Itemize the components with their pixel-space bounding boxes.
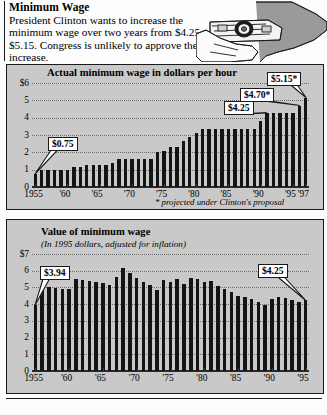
bar <box>108 285 112 371</box>
bar <box>34 305 38 371</box>
y-axis-label: 3 <box>7 131 29 140</box>
x-axis-tick <box>228 184 229 187</box>
x-axis-label: '95 <box>298 374 309 383</box>
x-axis-label: '70 <box>129 374 140 383</box>
bar <box>156 152 159 187</box>
x-axis-tick <box>132 184 133 187</box>
x-axis-label: '60 <box>61 374 72 383</box>
value-callout: $3.94 <box>40 266 70 280</box>
x-axis-tick <box>204 368 205 371</box>
bar <box>236 296 240 371</box>
bottom-divider <box>6 398 322 399</box>
x-axis-tick <box>171 368 172 371</box>
x-axis-label: '75 <box>156 190 167 199</box>
x-axis-tick <box>306 368 307 371</box>
hand-holding-money-icon <box>196 0 327 62</box>
x-axis-label: '75 <box>163 374 174 383</box>
x-axis-tick <box>69 368 70 371</box>
chart-value-of-minimum-wage: Value of minimum wage (In 1995 dollars, … <box>6 219 324 394</box>
bar <box>67 289 71 371</box>
bar <box>74 279 78 371</box>
x-axis-tick <box>35 368 36 371</box>
bar <box>240 129 243 187</box>
bar <box>149 159 152 187</box>
infographic-page: Minimum Wage President Clinton wants to … <box>0 0 327 415</box>
bar <box>243 297 247 371</box>
bar <box>272 113 275 187</box>
bar <box>148 285 152 371</box>
bar <box>135 278 139 371</box>
bar <box>297 302 301 371</box>
bar <box>188 137 191 187</box>
bar <box>298 106 301 187</box>
chart-bottom-subtitle: (In 1995 dollars, adjusted for inflation… <box>41 239 186 249</box>
bar <box>130 159 133 187</box>
x-axis-label: 1955 <box>24 374 43 383</box>
x-axis-tick <box>238 368 239 371</box>
y-axis-label: $6 <box>7 79 29 88</box>
bar <box>203 282 207 371</box>
bar <box>54 288 58 371</box>
x-axis-label: '80 <box>188 190 199 199</box>
bar <box>117 159 120 187</box>
x-axis-label: '95 <box>285 190 296 199</box>
bar <box>162 151 165 187</box>
bar <box>291 113 294 187</box>
x-axis-tick <box>261 184 262 187</box>
y-axis-label: $7 <box>7 250 29 259</box>
bar <box>196 279 200 371</box>
bar <box>92 165 95 187</box>
x-axis-label: '65 <box>95 374 106 383</box>
page-title: Minimum Wage <box>9 1 214 14</box>
bar <box>162 280 166 371</box>
bar <box>304 98 307 187</box>
x-axis-label: '85 <box>220 190 231 199</box>
y-axis-label: 3 <box>7 316 29 325</box>
bar <box>72 167 75 187</box>
x-axis-tick <box>306 184 307 187</box>
bar <box>250 299 254 371</box>
chart-actual-minimum-wage: Actual minimum wage in dollars per hour … <box>6 64 324 210</box>
callout-pointer <box>30 147 61 179</box>
y-axis-label: 6 <box>7 266 29 275</box>
bar <box>230 292 234 371</box>
x-axis-label: '97 <box>298 190 309 199</box>
bar <box>259 121 262 187</box>
bar <box>124 159 127 187</box>
x-axis-tick <box>272 368 273 371</box>
y-axis-label: 1 <box>7 350 29 359</box>
bar <box>223 289 227 371</box>
bar <box>216 286 220 371</box>
value-callout: $4.25 <box>224 101 254 115</box>
bar <box>182 141 185 187</box>
callout-pointer <box>276 274 312 305</box>
bar <box>290 300 294 371</box>
x-axis-tick <box>67 184 68 187</box>
bar <box>175 279 179 371</box>
value-callout: $5.15* <box>267 72 301 86</box>
bar <box>214 129 217 187</box>
bar <box>115 277 119 371</box>
header: Minimum Wage President Clinton wants to … <box>0 0 327 62</box>
bar <box>253 129 256 187</box>
x-axis-label: '60 <box>59 190 70 199</box>
header-description: President Clinton wants to increase the … <box>9 14 214 64</box>
bar <box>175 147 178 187</box>
x-axis-label: '70 <box>124 190 135 199</box>
x-axis-tick <box>196 184 197 187</box>
bar <box>220 129 223 187</box>
x-axis-label: '90 <box>264 374 275 383</box>
bar <box>209 281 213 371</box>
bar <box>85 165 88 187</box>
value-callout: $0.75 <box>48 137 78 151</box>
x-axis-tick <box>293 184 294 187</box>
x-axis-label: '85 <box>230 374 241 383</box>
bar <box>142 282 146 371</box>
bar <box>137 159 140 187</box>
bar <box>88 281 92 371</box>
bar <box>277 297 281 371</box>
bar <box>94 282 98 371</box>
x-axis-label: '65 <box>92 190 103 199</box>
gridline <box>32 254 309 255</box>
x-axis-tick <box>103 368 104 371</box>
